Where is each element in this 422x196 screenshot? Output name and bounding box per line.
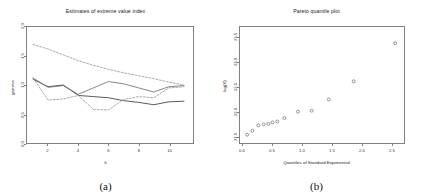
x-tick-mark xyxy=(170,144,171,146)
y-tick-label: 1.5 xyxy=(20,53,25,59)
chart-title-b: Pareto quantile plot xyxy=(211,8,422,14)
x-tick-mark xyxy=(78,144,79,146)
y-tick-label: 0.0 xyxy=(20,141,25,147)
subfigure-caption-a: (a) xyxy=(0,180,211,192)
y-axis-title-b: log(X) xyxy=(222,80,227,92)
y-axis-title-a: gamma xyxy=(10,80,15,95)
x-tick-label: 1.5 xyxy=(329,148,335,153)
x-axis-title-a: k xyxy=(0,160,211,165)
x-tick-mark xyxy=(332,144,333,146)
x-tick-mark xyxy=(242,144,243,146)
x-tick-mark xyxy=(139,144,140,146)
figure-container: Estimates of extreme value index 2468100… xyxy=(0,0,422,196)
y-tick-label: 22.5 xyxy=(233,83,238,91)
y-tick-label: 23.5 xyxy=(233,33,238,41)
chart-title-a: Estimates of extreme value index xyxy=(0,8,211,14)
panel-b: Pareto quantile plot 0.00.51.01.52.02.52… xyxy=(211,0,422,196)
panel-a: Estimates of extreme value index 2468100… xyxy=(0,0,211,196)
y-tick-label: 23.0 xyxy=(233,58,238,66)
y-tick-label: 2.0 xyxy=(20,23,25,29)
plot-area-b xyxy=(239,26,405,144)
line-chart-a xyxy=(27,27,193,143)
x-tick-label: 6 xyxy=(107,148,109,153)
y-tick-label: 22.0 xyxy=(233,108,238,116)
y-tick-label: 21.5 xyxy=(233,132,238,140)
x-tick-label: 2 xyxy=(46,148,48,153)
scatter-chart-b xyxy=(240,27,404,143)
subfigure-caption-b: (b) xyxy=(211,180,422,192)
x-tick-mark xyxy=(362,144,363,146)
x-tick-mark xyxy=(392,144,393,146)
x-tick-label: 0.5 xyxy=(269,148,275,153)
x-tick-label: 10 xyxy=(167,148,172,153)
x-tick-mark xyxy=(302,144,303,146)
x-tick-mark xyxy=(108,144,109,146)
x-tick-label: 8 xyxy=(138,148,140,153)
y-tick-label: 1.0 xyxy=(20,82,25,88)
x-tick-label: 2.0 xyxy=(359,148,365,153)
x-tick-mark xyxy=(272,144,273,146)
x-tick-label: 2.5 xyxy=(389,148,395,153)
x-tick-label: 4 xyxy=(77,148,79,153)
plot-area-a xyxy=(26,26,194,144)
x-tick-mark xyxy=(47,144,48,146)
x-axis-title-b: Quantiles of Standard Exponential xyxy=(211,160,422,165)
y-tick-label: 0.5 xyxy=(20,112,25,118)
x-tick-label: 1.0 xyxy=(299,148,305,153)
x-tick-label: 0.0 xyxy=(239,148,245,153)
